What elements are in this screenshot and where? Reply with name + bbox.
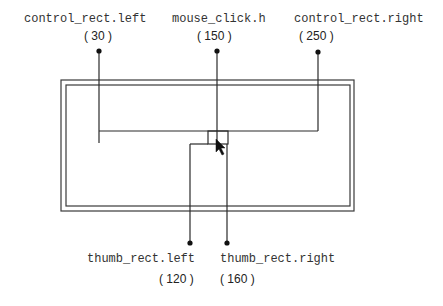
mouse-pointer-icon (216, 139, 225, 155)
control-right-dot (315, 49, 320, 54)
thumb-rect-left-value: ( 120 ) (159, 272, 194, 286)
control-left-dot (96, 48, 101, 53)
control-rect-left-value: ( 30 ) (84, 29, 112, 43)
thumb-rect-right-label: thumb_rect.right (220, 252, 335, 266)
mouse-click-dot (214, 48, 219, 53)
control-rect-left-label: control_rect.left (24, 12, 146, 26)
window-outer-border (61, 80, 354, 211)
mouse-click-h-label: mouse_click.h (172, 12, 266, 26)
thumb-right-dot (224, 240, 229, 245)
mouse-click-h-value: ( 150 ) (197, 29, 232, 43)
thumb-rect-right-value: ( 160 ) (220, 272, 255, 286)
thumb-left-dot (187, 240, 192, 245)
window-inner-border (66, 85, 350, 206)
control-rect-right-label: control_rect.right (294, 12, 424, 26)
control-rect-right-value: ( 250 ) (299, 29, 334, 43)
thumb-rect-left-label: thumb_rect.left (87, 252, 195, 266)
